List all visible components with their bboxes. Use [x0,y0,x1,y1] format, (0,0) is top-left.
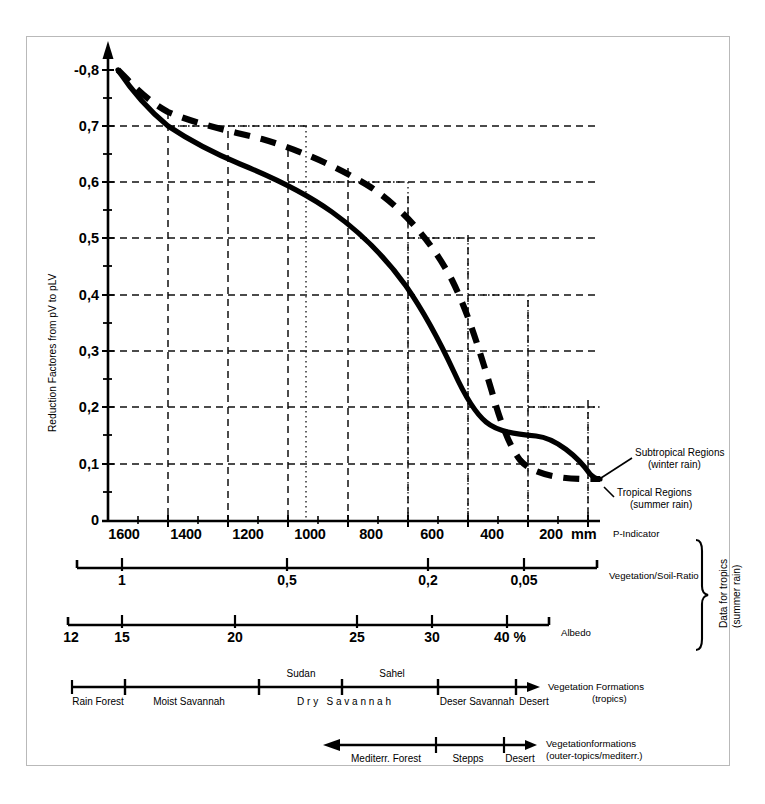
y-tick-label: -0,8 [57,62,99,78]
x-axis-unit: mm [571,526,596,542]
bracket-label-data-for-tropics: Data for tropics [718,559,729,628]
vegetation-zone-label: D r y S a v a n n a h [297,696,391,707]
scale-albedo [68,615,549,628]
x-tick-label: 1200 [232,526,263,542]
x-tick-label: 400 [480,526,504,542]
y-tick-label: 0 [57,512,99,528]
scale-title-albedo: Albedo [561,628,591,639]
curve-tropical-regions [118,70,600,479]
curve-label-tropical-regions: Tropical Regions [617,487,692,498]
vegetation-zone-upper-label: Sahel [379,668,405,679]
y-tick-label: 0,7 [57,118,99,134]
scale-subtitle-vegetation-formations-tropics: (tropics) [592,694,627,705]
grid-horizontal [108,126,600,464]
scale-title-vegetation-soil-ratio: Vegetation/Soil-Ratio [609,571,699,582]
guide-lines-dotted [168,126,600,521]
vegetation-soil-ratio-tick-label: 1 [118,573,126,589]
y-axis [103,41,114,521]
bracket-data-for-tropics [696,540,708,650]
vegetation-zone-upper-label: Sudan [287,668,316,679]
vegetation-soil-ratio-tick-label: 0,5 [277,573,296,589]
vegetation-zone-label: Deser Savannah [440,696,515,707]
vegetation-soil-ratio-tick-label: 0,05 [510,573,537,589]
vegetation-soil-ratio-tick-label: 0,2 [418,573,437,589]
y-tick-label: 0,6 [57,174,99,190]
curve-subtropical-regions [118,70,600,479]
curve-label-subtropical-regions-sub: (winter rain) [648,459,701,470]
chart-canvas [0,0,765,804]
albedo-tick-label: 30 [424,630,440,646]
x-axis-title: P-Indicator [613,529,659,540]
bracket-label-data-for-tropics-sub: (summer rain) [731,565,742,628]
albedo-tick-label: 20 [227,630,243,646]
outer-tropics-zone-label: Stepps [452,753,483,764]
y-tick-label: 0,3 [57,343,99,359]
scale-vegetation-formations-outer-tropics [323,737,537,753]
x-tick-label: 1000 [294,526,325,542]
albedo-tick-label: 25 [349,630,365,646]
scale-vegetation-soil-ratio [77,558,597,571]
albedo-tick-label: 12 [63,630,79,646]
albedo-tick-label: 15 [114,630,130,646]
y-tick-label: 0,4 [57,287,99,303]
albedo-tick-label: 40 % [494,630,526,646]
scale-title-vegetation-formations-tropics: Vegetation Formations [548,682,644,693]
y-tick-label: 0,2 [57,399,99,415]
grid-vertical [168,112,588,521]
vegetation-zone-label: Moist Savannah [153,696,225,707]
x-tick-label: 800 [359,526,383,542]
scale-title-vegetation-formations-outer-tropics: Vegetationformations [546,739,636,750]
vegetation-zone-label: Desert [519,696,548,707]
x-tick-label: 600 [420,526,444,542]
vegetation-zone-label: Rain Forest [72,696,124,707]
y-tick-label: 0,1 [57,456,99,472]
outer-tropics-zone-label: Desert [505,753,534,764]
curve-label-tropical-regions-sub: (summer rain) [630,499,692,510]
curve-label-subtropical-regions: Subtropical Regions [635,447,725,458]
outer-tropics-zone-label: Mediterr. Forest [351,753,421,764]
x-tick-label: 200 [539,526,563,542]
x-tick-label: 1400 [170,526,201,542]
scale-subtitle-vegetation-formations-outer-tropics: (outer-topics/mediterr.) [546,751,643,762]
y-tick-label: 0,5 [57,230,99,246]
scale-vegetation-formations-tropics [72,679,540,695]
x-tick-label: 1600 [108,526,139,542]
